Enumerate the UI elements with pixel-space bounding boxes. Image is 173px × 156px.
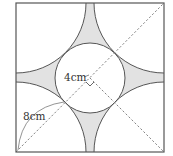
radius-label: 4cm <box>64 71 87 83</box>
geometry-diagram: 4cm 8cm <box>0 0 173 156</box>
length-label: 8cm <box>23 110 46 122</box>
